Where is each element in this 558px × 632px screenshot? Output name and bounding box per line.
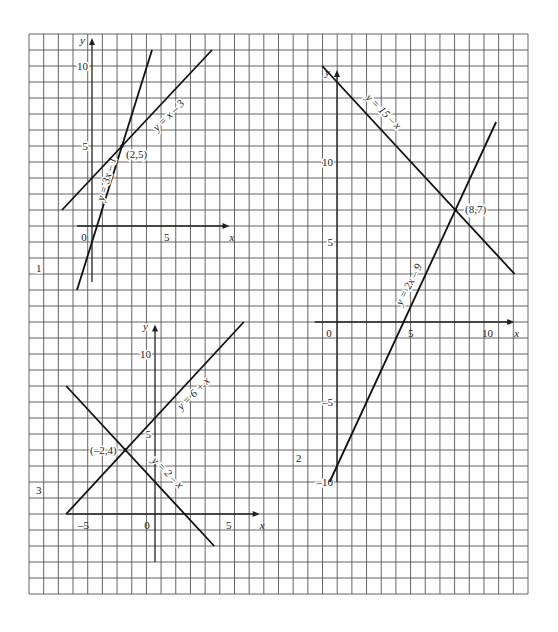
panel-number-label: 1: [36, 262, 42, 274]
y-axis-label: y: [79, 34, 85, 46]
x-tick-label: 5: [408, 327, 414, 339]
x-tick-label: 10: [482, 327, 494, 339]
intersection-point: [454, 208, 458, 212]
y-tick-label: –5: [321, 396, 334, 408]
y-tick-label: 10: [322, 156, 334, 168]
intersection-label: (2,5): [126, 148, 147, 161]
graph-panel-3: xy–505510y = 6 + xy = 2 – x(–2,4)3: [36, 320, 265, 562]
intersection-label: (–2,4): [90, 444, 117, 457]
x-axis-label: x: [229, 231, 235, 243]
line-equation-label: y = x – 3: [149, 97, 186, 134]
graph-panel-2: xy0510–10–5510y = 15 – xy = 2x – 9(8,7)2: [296, 66, 519, 488]
panel-number-label: 3: [36, 484, 42, 496]
x-axis-label: x: [259, 519, 265, 531]
y-tick-label: 10: [140, 348, 152, 360]
panel-number-label: 2: [296, 452, 302, 464]
y-tick-label: 5: [83, 140, 89, 152]
x-axis-arrow-icon: [253, 511, 260, 517]
y-axis-arrow-icon: [334, 70, 340, 77]
graph-line: [322, 66, 514, 274]
x-tick-label: 0: [326, 327, 332, 339]
x-axis-label: x: [513, 327, 519, 339]
grid-lines: [29, 34, 528, 594]
x-tick-label: 5: [164, 231, 170, 243]
y-tick-label: 10: [77, 60, 89, 72]
line-equation-label: y = 6 + x: [174, 374, 212, 412]
x-tick-label: 0: [81, 231, 87, 243]
intersection-point: [124, 448, 128, 452]
x-axis-arrow-icon: [223, 223, 230, 229]
y-axis-arrow-icon: [89, 38, 95, 45]
line-equation-label: y = 15 – x: [363, 90, 404, 131]
y-axis-label: y: [142, 320, 148, 332]
y-tick-label: 5: [328, 236, 334, 248]
x-tick-label: 5: [226, 519, 232, 531]
intersection-label: (8,7): [465, 203, 486, 216]
x-tick-label: 0: [144, 519, 150, 531]
y-tick-label: 5: [146, 428, 152, 440]
graph-paper-figure: xy05510y = 3x – 1y = x – 3(2,5)1 xy0510–…: [0, 0, 558, 632]
graph-line: [330, 122, 497, 482]
x-tick-label: –5: [77, 519, 90, 531]
line-equation-label: y = 2x – 9: [392, 261, 424, 308]
y-axis-arrow-icon: [152, 324, 158, 331]
intersection-point: [120, 144, 124, 148]
